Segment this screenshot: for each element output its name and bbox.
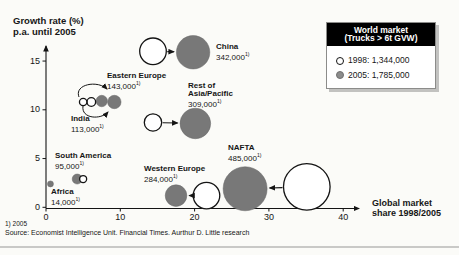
y-tick-label-0: 0 [24,203,40,212]
y-tick-label-15: 15 [24,57,40,66]
y-tick-label-10: 10 [24,105,40,114]
legend-item-1998-text: 1998: 1,344,000 [348,56,409,65]
source-line: Source: Economist Intelligence Unit. Fin… [5,229,249,236]
region-label-china: China342,0001) [216,43,249,61]
x-tick-label-30: 30 [264,213,274,222]
open-circle-icon [336,57,344,65]
legend-title-line2: (Trucks > 6t GVW) [327,34,435,43]
y-tick-label-5: 5 [24,154,40,163]
bubble-chart: Growth rate (%) p.a. until 2005 Global m… [0,0,459,255]
legend: World market (Trucks > 6t GVW) 1998: 1,3… [326,22,436,89]
x-tick-label-40: 40 [338,213,348,222]
legend-title: World market (Trucks > 6t GVW) [327,23,435,46]
region-label-s_america: South America95,0001) [55,152,111,170]
region-label-e_europe: Eastern Europe143,0001) [107,72,166,90]
legend-item-2005-text: 2005: 1,785,000 [348,71,409,80]
legend-item-2005: 2005: 1,785,000 [336,71,409,80]
region-label-nafta: NAFTA485,0001) [228,144,261,162]
region-label-asia_pacific: Rest ofAsia/Pacific309,0001) [188,82,233,108]
legend-item-1998: 1998: 1,344,000 [336,56,409,65]
filled-circle-icon [336,71,344,79]
bottom-divider [0,246,459,248]
footnote: 1) 2005 [5,220,27,227]
x-tick-label-0: 0 [43,213,48,222]
region-label-africa: Africa14,0001) [51,188,80,206]
region-label-india: India113,0001) [71,115,104,133]
region-label-w_europe: Western Europe284,0001) [144,165,205,183]
x-tick-label-10: 10 [115,213,125,222]
x-tick-label-20: 20 [190,213,200,222]
